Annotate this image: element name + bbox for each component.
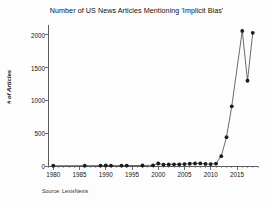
x-tick-label: 1995 (125, 171, 139, 178)
x-tick-label: 2010 (204, 171, 218, 178)
data-point (104, 164, 108, 168)
data-point (214, 162, 218, 166)
data-point (83, 164, 87, 168)
data-point (225, 135, 229, 139)
data-point (183, 162, 187, 166)
y-axis-tick-labels: 0500100015002000 (20, 25, 45, 166)
data-point (193, 162, 197, 166)
source-note: Source: LexisNexis (42, 188, 88, 194)
data-point (162, 163, 166, 167)
data-point (120, 164, 124, 168)
data-point (204, 162, 208, 166)
x-tick-label: 2000 (151, 171, 165, 178)
data-point (177, 162, 181, 166)
x-tick-label: 1990 (99, 171, 113, 178)
x-axis-tick-labels: 19801985199019952000200520102015 (48, 171, 258, 183)
y-tick-label: 500 (34, 130, 45, 137)
data-point (156, 162, 160, 166)
data-point (251, 31, 255, 35)
axes (45, 25, 258, 170)
y-axis-label: # of Articles (6, 57, 12, 117)
y-tick-label: 1000 (31, 97, 45, 104)
data-point (198, 161, 202, 165)
plot-area (48, 25, 258, 166)
data-point (99, 164, 103, 168)
chart-title: Number of US News Articles Mentioning 'I… (0, 6, 273, 15)
data-point (51, 164, 55, 168)
data-point (209, 162, 213, 166)
plot-svg (48, 25, 258, 166)
x-tick-label: 2015 (230, 171, 244, 178)
y-tick-label: 1500 (31, 64, 45, 71)
x-tick-label: 2005 (177, 171, 191, 178)
data-point (230, 104, 234, 108)
data-point (167, 163, 171, 167)
x-tick-label: 1980 (46, 171, 60, 178)
series-line (53, 31, 253, 166)
data-point (141, 164, 145, 168)
data-point (240, 29, 244, 33)
data-point (246, 79, 250, 83)
data-point (172, 162, 176, 166)
data-series (51, 29, 254, 168)
data-point (219, 154, 223, 158)
data-point (109, 164, 113, 168)
y-tick-label: 2000 (31, 31, 45, 38)
data-point (151, 163, 155, 167)
y-tick-label: 0 (41, 163, 45, 170)
chart-figure: Number of US News Articles Mentioning 'I… (0, 0, 273, 207)
data-point (188, 162, 192, 166)
data-point (125, 164, 129, 168)
x-tick-label: 1985 (72, 171, 86, 178)
